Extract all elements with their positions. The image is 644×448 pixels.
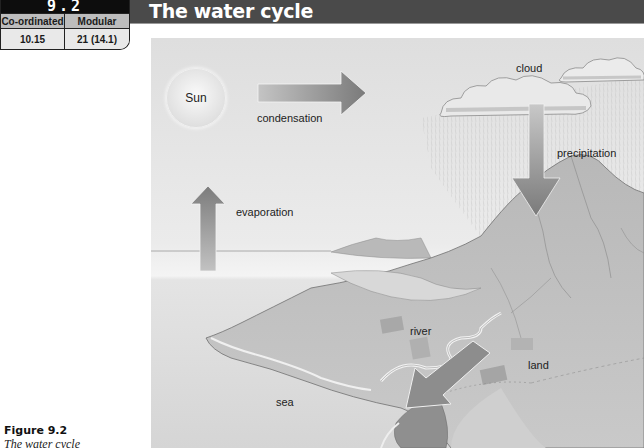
table-cell-modular: 21 (14.1)	[65, 28, 129, 49]
condensation-label: condensation	[257, 112, 322, 124]
table-header-modular: Modular	[65, 13, 129, 28]
syllabus-table: Co-ordinated Modular 10.15 21 (14.1)	[1, 13, 129, 49]
table-cell-coordinated: 10.15	[1, 28, 65, 49]
evaporation-arrow	[191, 186, 225, 271]
cloud-label: cloud	[516, 62, 542, 74]
condensation-arrow	[258, 71, 366, 115]
evaporation-label: evaporation	[236, 206, 294, 218]
water-cycle-illustration: Sun condensation cloud precipitation eva…	[151, 38, 644, 448]
land-label: land	[528, 359, 549, 371]
page-title: The water cycle	[130, 0, 644, 23]
sun-label: Sun	[185, 91, 206, 105]
sea-label: sea	[276, 396, 294, 408]
figure-number: Figure 9.2	[4, 424, 80, 437]
river-label: river	[410, 325, 431, 337]
figure-caption: Figure 9.2 The water cycle	[4, 424, 80, 448]
table-header-coordinated: Co-ordinated	[1, 13, 65, 28]
precipitation-label: precipitation	[557, 147, 616, 159]
section-reference-box: 9.2 Co-ordinated Modular 10.15 21 (14.1)	[0, 0, 130, 50]
sun-graphic: Sun	[166, 68, 226, 128]
section-number: 9.2	[1, 0, 129, 13]
title-divider	[130, 23, 644, 24]
figure-title: The water cycle	[4, 437, 80, 448]
